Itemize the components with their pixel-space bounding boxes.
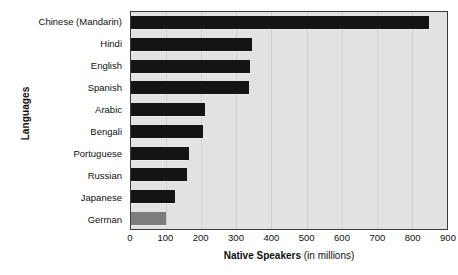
x-tick-label: 800 <box>405 232 421 243</box>
x-axis-title-rest: (in millions) <box>301 250 354 261</box>
x-axis-ticks: 0100200300400500600700800900 <box>130 232 448 246</box>
bar <box>131 147 189 160</box>
x-tick-label: 700 <box>369 232 385 243</box>
bar <box>131 60 250 73</box>
category-label: Russian <box>24 164 126 186</box>
bar <box>131 38 252 51</box>
bar-row <box>131 142 447 164</box>
bar-row <box>131 186 447 208</box>
bar <box>131 16 429 29</box>
bar-row <box>131 34 447 56</box>
category-label: Spanish <box>24 77 126 99</box>
bar-row <box>131 99 447 121</box>
x-tick-label: 600 <box>334 232 350 243</box>
category-label: English <box>24 55 126 77</box>
gridline <box>447 12 448 229</box>
bar-row <box>131 55 447 77</box>
category-label: German <box>24 208 126 230</box>
category-label: Chinese (Mandarin) <box>24 11 126 33</box>
bar <box>131 190 175 203</box>
category-label: Hindi <box>24 33 126 55</box>
bar <box>131 168 187 181</box>
category-label: Arabic <box>24 99 126 121</box>
x-tick-label: 200 <box>193 232 209 243</box>
x-tick-label: 0 <box>127 232 132 243</box>
category-label: Japanese <box>24 186 126 208</box>
bar-row <box>131 121 447 143</box>
bar-row <box>131 77 447 99</box>
x-axis-title: Native Speakers (in millions) <box>130 250 448 261</box>
bar <box>131 125 203 138</box>
plot-area <box>130 11 448 230</box>
x-tick-label: 500 <box>299 232 315 243</box>
bar <box>131 103 205 116</box>
bar-chart-figure: Languages Chinese (Mandarin)HindiEnglish… <box>0 0 458 275</box>
x-tick-label: 300 <box>228 232 244 243</box>
x-tick-label: 400 <box>263 232 279 243</box>
bar-row <box>131 207 447 229</box>
category-label-column: Chinese (Mandarin)HindiEnglishSpanishAra… <box>24 11 126 230</box>
x-tick-label: 900 <box>440 232 456 243</box>
x-axis-title-bold: Native Speakers <box>224 250 301 261</box>
bar <box>131 81 249 94</box>
category-label: Portuguese <box>24 142 126 164</box>
x-tick-label: 100 <box>157 232 173 243</box>
bar-row <box>131 12 447 34</box>
bar <box>131 212 166 225</box>
bar-row <box>131 164 447 186</box>
category-label: Bengali <box>24 121 126 143</box>
bar-series <box>131 12 447 229</box>
